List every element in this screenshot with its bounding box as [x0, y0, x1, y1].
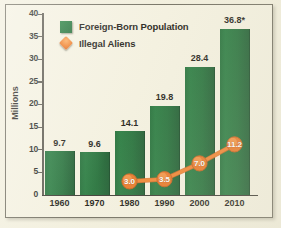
line-value-1990: 3.5: [155, 176, 175, 184]
line-value-2010: 11.2: [224, 141, 246, 149]
legend-item-foreign-born[interactable]: Foreign-Born Population: [60, 18, 189, 35]
plot-area: Millions 40 35 30 25 20 15 10 5: [0, 0, 281, 228]
legend-label-foreign-born: Foreign-Born Population: [79, 21, 189, 32]
legend-green-square-icon: [60, 21, 72, 33]
line-value-1980: 3.0: [120, 178, 140, 186]
chart-legend: Foreign-Born Population Illegal Aliens: [60, 18, 189, 52]
legend-label-illegal-aliens: Illegal Aliens: [79, 38, 135, 49]
line-value-2000: 7.0: [190, 160, 210, 168]
chart-screenshot: Millions 40 35 30 25 20 15 10 5: [0, 0, 281, 228]
legend-orange-diamond-icon: [60, 37, 73, 50]
legend-item-illegal-aliens[interactable]: Illegal Aliens: [60, 35, 189, 52]
